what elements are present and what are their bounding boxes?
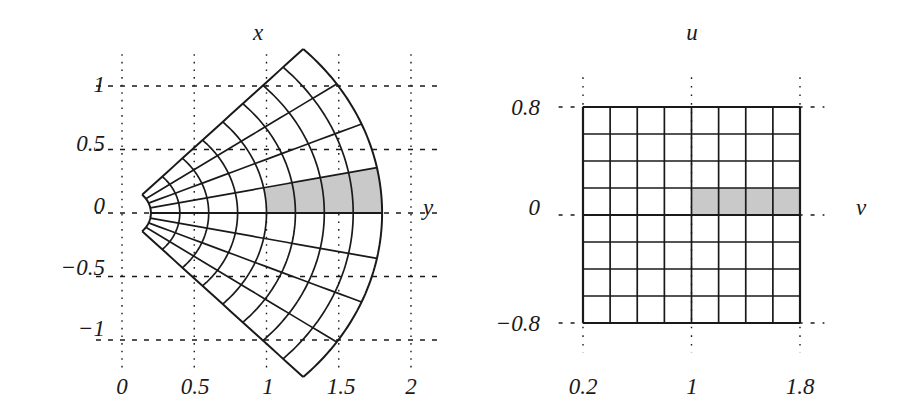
left-xtick-2: 2 <box>405 374 417 399</box>
figure-root: x y 1 0.5 0 −0.5 −1 0 0.5 1 1.5 2 u v 0.… <box>0 0 905 417</box>
right-uniform-mesh <box>583 107 800 323</box>
right-plot-svg: u v 0.8 0 −0.8 0.2 1 1.8 <box>452 0 905 417</box>
left-ytick-neg0p5: −0.5 <box>61 255 105 280</box>
right-axis-title-u: u <box>686 20 698 45</box>
left-plot-panel: x y 1 0.5 0 −0.5 −1 0 0.5 1 1.5 2 <box>0 0 452 417</box>
left-ytick-0: 0 <box>94 193 106 218</box>
right-plot-panel: u v 0.8 0 −0.8 0.2 1 1.8 <box>452 0 905 417</box>
right-ytick-0p8: 0.8 <box>511 95 540 120</box>
left-axis-title-y: y <box>421 195 434 220</box>
left-axis-title-x: x <box>252 20 264 45</box>
left-ytick-neg1: −1 <box>78 316 105 341</box>
right-ytick-neg0p8: −0.8 <box>496 311 541 336</box>
left-xtick-1: 1 <box>262 374 274 399</box>
right-xtick-0p2: 0.2 <box>569 374 598 399</box>
left-ytick-1: 1 <box>94 72 106 97</box>
left-ytick-0p5: 0.5 <box>76 131 105 156</box>
left-xtick-0: 0 <box>116 374 128 399</box>
right-axis-title-v: v <box>856 195 867 220</box>
left-xtick-1p5: 1.5 <box>327 374 356 399</box>
right-xtick-1: 1 <box>686 374 698 399</box>
left-plot-svg: x y 1 0.5 0 −0.5 −1 0 0.5 1 1.5 2 <box>0 0 452 417</box>
right-ytick-0: 0 <box>529 195 541 220</box>
left-xtick-0p5: 0.5 <box>181 374 210 399</box>
right-xtick-1p8: 1.8 <box>786 374 815 399</box>
